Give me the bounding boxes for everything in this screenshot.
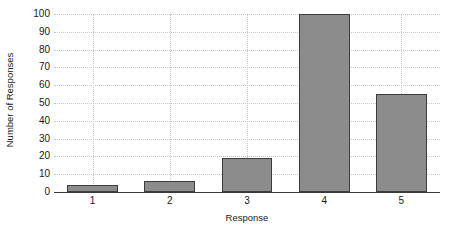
x-tick-label: 4: [321, 195, 327, 207]
bar-5: [376, 94, 427, 192]
x-tick-label: 5: [399, 195, 405, 207]
y-tick-label: 20: [16, 151, 50, 161]
x-tick-label: 3: [244, 195, 250, 207]
gridline-vertical: [93, 14, 94, 192]
gridline-vertical: [170, 14, 171, 192]
y-tick-label: 0: [16, 187, 50, 197]
y-axis-label: Number of Responses: [2, 4, 16, 196]
y-tick-label: 70: [16, 62, 50, 72]
y-tick-label: 30: [16, 134, 50, 144]
y-tick-label: 60: [16, 80, 50, 90]
bar-3: [222, 158, 273, 192]
x-tick-label: 2: [167, 195, 173, 207]
y-axis-tick-labels: 0102030405060708090100: [16, 0, 50, 233]
plot-area: [54, 14, 440, 193]
x-axis-label: Response: [54, 212, 440, 223]
x-axis-tick-labels: 12345: [54, 195, 440, 211]
y-tick-label: 10: [16, 169, 50, 179]
y-tick-label: 80: [16, 45, 50, 55]
x-tick-label: 1: [90, 195, 96, 207]
y-tick-label: 40: [16, 116, 50, 126]
bar-2: [144, 181, 195, 192]
bar-1: [67, 185, 118, 192]
bar-chart-figure: Number of Responses 01020304050607080901…: [0, 0, 454, 233]
y-tick-label: 50: [16, 98, 50, 108]
y-tick-label: 100: [16, 9, 50, 19]
y-tick-label: 90: [16, 27, 50, 37]
bar-4: [299, 14, 350, 192]
